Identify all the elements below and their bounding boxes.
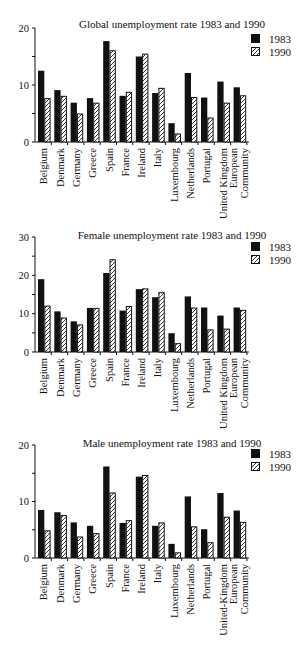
bar-group xyxy=(103,260,115,352)
bar-group xyxy=(168,123,180,142)
legend-swatch-hatched xyxy=(252,256,260,264)
bar-1983 xyxy=(201,308,207,352)
bar-1983 xyxy=(152,297,158,352)
y-tick-label: 20 xyxy=(19,440,30,451)
bar-1990 xyxy=(94,534,99,558)
bar-1983 xyxy=(120,523,126,558)
bar-group xyxy=(87,526,99,558)
y-tick-label: 0 xyxy=(24,553,29,564)
bar-group xyxy=(87,98,99,142)
bar-group xyxy=(152,88,164,142)
bar-group xyxy=(38,71,50,142)
bar-1990 xyxy=(224,517,229,558)
y-tick-label: 10 xyxy=(19,308,30,319)
x-category-label: United-Kingdom xyxy=(218,564,229,636)
x-category-label: Belgium xyxy=(38,564,49,600)
bar-1983 xyxy=(136,289,142,352)
bar-group xyxy=(185,296,197,352)
bar-1990 xyxy=(159,88,164,142)
legend-swatch-hatched xyxy=(252,48,260,56)
x-category-label: Spain xyxy=(104,357,115,382)
x-category-label: Spain xyxy=(104,147,115,172)
bar-1983 xyxy=(234,511,240,558)
bar-group xyxy=(136,54,148,142)
bar-1990 xyxy=(159,523,164,558)
bar-group xyxy=(185,73,197,142)
legend: 19831990 xyxy=(251,33,292,58)
legend-swatch-solid xyxy=(251,449,260,458)
x-category-label: Luxembourg xyxy=(169,147,180,202)
bar-1990 xyxy=(192,308,197,352)
bar-1983 xyxy=(168,123,174,142)
x-category-label: Community xyxy=(239,563,250,614)
bar-1983 xyxy=(234,87,240,142)
x-category-label: Spain xyxy=(104,563,115,588)
x-category-label: European xyxy=(228,357,239,398)
x-category-label: Greece xyxy=(87,358,98,388)
bar-1990 xyxy=(224,103,229,142)
bar-1990 xyxy=(143,54,148,142)
bar-group xyxy=(71,103,83,142)
bar-1983 xyxy=(87,98,93,142)
x-category-label: Netherlands xyxy=(185,564,196,615)
x-category-label: France xyxy=(120,358,131,387)
x-category-label: Ireland xyxy=(136,147,147,177)
bar-1983 xyxy=(87,526,93,558)
bar-1990 xyxy=(45,99,50,142)
bar-1990 xyxy=(143,475,148,558)
bar-1983 xyxy=(217,316,223,352)
x-category-label: Portugal xyxy=(201,358,212,394)
bar-1983 xyxy=(234,308,240,352)
bar-1983 xyxy=(185,496,191,558)
bar-group xyxy=(103,466,115,558)
bar-1990 xyxy=(240,310,245,352)
x-category-label: European xyxy=(228,563,239,604)
bar-group xyxy=(120,521,132,558)
bar-group xyxy=(201,98,213,142)
bar-1983 xyxy=(103,273,109,352)
bar-1983 xyxy=(54,512,60,558)
bar-1983 xyxy=(152,93,158,142)
bar-group xyxy=(152,293,164,352)
bar-1990 xyxy=(192,97,197,142)
bar-1983 xyxy=(136,477,142,558)
x-category-label: Netherlands xyxy=(185,148,196,199)
bar-1983 xyxy=(103,41,109,142)
x-category-label: Denmark xyxy=(55,357,66,397)
bar-group xyxy=(217,82,229,142)
bar-1983 xyxy=(38,279,44,352)
bar-1990 xyxy=(208,330,213,352)
x-category-label: Community xyxy=(239,147,250,198)
x-category-label: Portugal xyxy=(201,148,212,184)
bar-group xyxy=(234,87,246,142)
bar-group xyxy=(120,307,132,353)
x-category-label: Germany xyxy=(71,147,82,187)
bar-1983 xyxy=(168,333,174,352)
female-unemployment-chart: Female unemployment rate 1983 and 199001… xyxy=(0,225,308,435)
bar-group xyxy=(201,308,213,352)
bar-1990 xyxy=(61,516,66,558)
x-category-label: Greece xyxy=(87,564,98,594)
chart-title: Female unemployment rate 1983 and 1990 xyxy=(78,229,267,241)
bar-group xyxy=(87,308,99,352)
bar-1983 xyxy=(136,57,142,143)
x-category-label: Ireland xyxy=(136,563,147,593)
bar-1990 xyxy=(61,318,66,352)
bar-group xyxy=(38,279,50,352)
bar-1983 xyxy=(71,103,77,142)
bar-group xyxy=(54,512,66,558)
bar-1990 xyxy=(126,307,131,353)
bar-group xyxy=(217,493,229,558)
bar-1990 xyxy=(224,329,229,352)
bar-group xyxy=(71,321,83,352)
legend-label: 1990 xyxy=(269,461,292,473)
bar-1983 xyxy=(185,296,191,352)
bar-group xyxy=(54,90,66,142)
bar-1983 xyxy=(152,526,158,558)
y-tick-label: 30 xyxy=(19,232,30,243)
bar-1990 xyxy=(77,114,82,142)
bar-group xyxy=(201,529,213,558)
x-category-label: Germany xyxy=(71,357,82,397)
global-unemployment-chart: Global unemployment rate 1983 and 199001… xyxy=(0,0,308,225)
bar-1990 xyxy=(126,92,131,142)
